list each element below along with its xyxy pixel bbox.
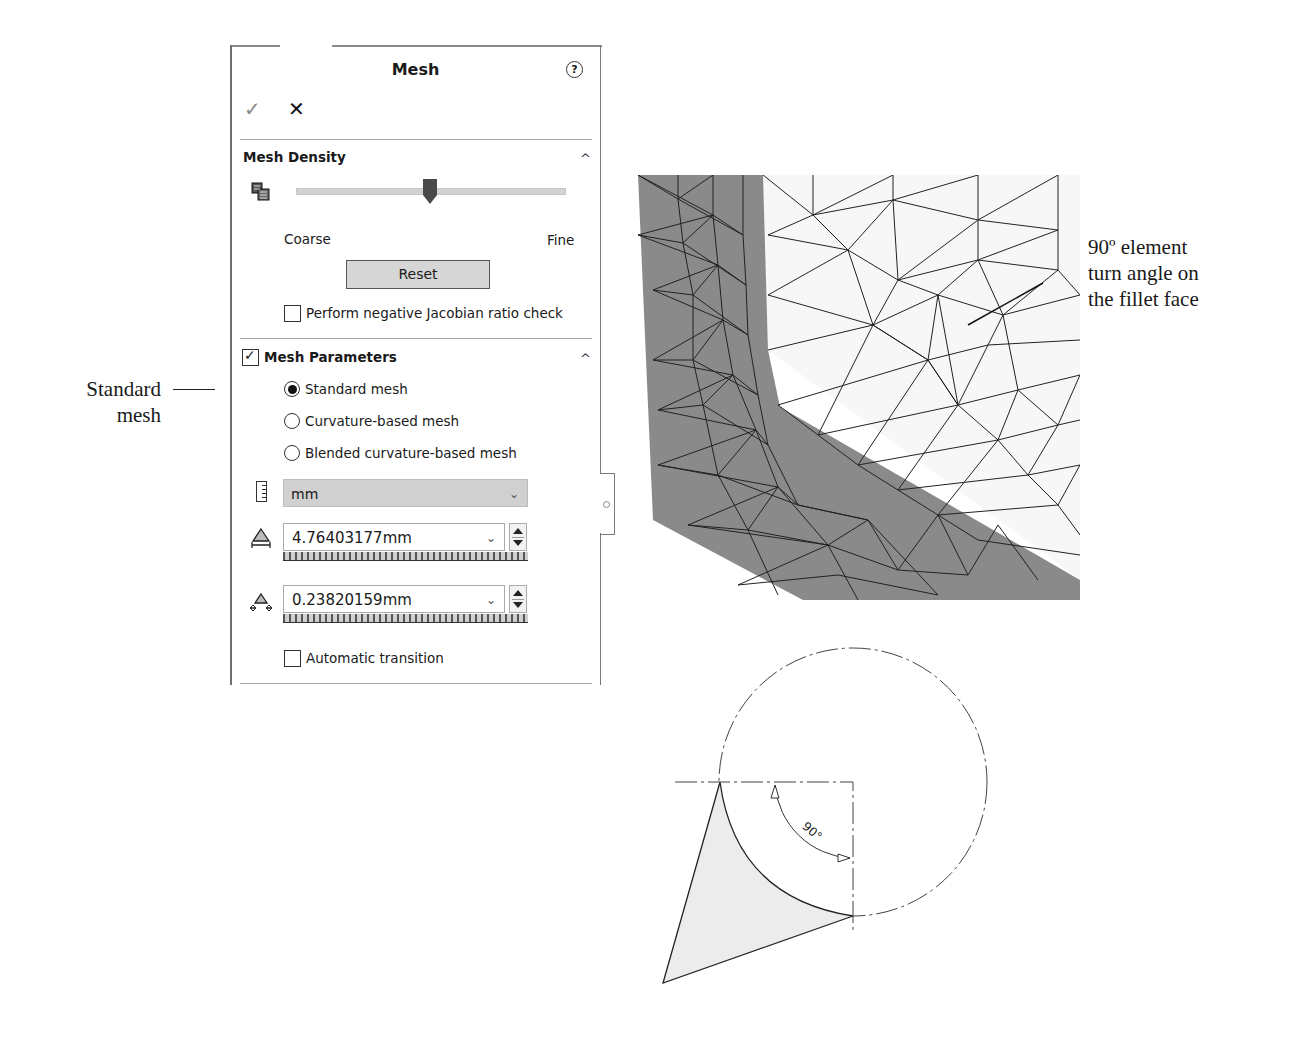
global-size-spinner[interactable]: [509, 523, 527, 551]
blended-curvature-mesh-label: Blended curvature-based mesh: [305, 445, 517, 461]
chevron-down-icon[interactable]: ⌄: [509, 480, 519, 508]
mesh-density-slider-thumb[interactable]: [423, 195, 437, 204]
mesh-density-icon: [250, 181, 272, 203]
cancel-x-button[interactable]: ✕: [288, 97, 305, 121]
global-size-icon: [250, 527, 272, 549]
mesh-property-manager: Mesh ? ✓ ✕ Mesh Density ^ Coarse Fine Re…: [230, 45, 601, 685]
global-size-input[interactable]: 4.76403177mm ⌄: [283, 523, 505, 551]
unit-ruler-icon: [256, 481, 267, 502]
unit-dropdown[interactable]: mm ⌄: [283, 479, 528, 507]
tolerance-spinner[interactable]: [509, 585, 527, 613]
mesh-parameters-heading: Mesh Parameters: [264, 349, 397, 365]
tolerance-icon: [248, 591, 274, 613]
tolerance-thumbwheel[interactable]: [283, 614, 528, 623]
divider: [240, 683, 592, 684]
divider: [240, 338, 592, 339]
tolerance-value: 0.23820159mm: [292, 591, 412, 609]
annotation-leader-line: [173, 389, 215, 390]
panel-border: [600, 45, 601, 475]
panel-border: [600, 533, 601, 685]
annotation-line: the fillet face: [1088, 286, 1199, 312]
global-size-value: 4.76403177mm: [292, 529, 412, 547]
help-icon[interactable]: ?: [566, 61, 583, 78]
divider: [240, 139, 592, 140]
global-size-thumbwheel[interactable]: [283, 552, 528, 561]
reset-button[interactable]: Reset: [346, 260, 490, 289]
jacobian-check-label: Perform negative Jacobian ratio check: [306, 305, 563, 321]
tolerance-input[interactable]: 0.23820159mm ⌄: [283, 585, 505, 613]
curvature-based-mesh-radio[interactable]: [284, 413, 300, 429]
mesh-density-slider-thumb[interactable]: [423, 179, 437, 195]
mesh-parameters-checkbox[interactable]: [242, 349, 259, 366]
unit-value: mm: [291, 486, 318, 502]
turn-angle-diagram: 90°: [640, 640, 1040, 1000]
standard-mesh-annotation: Standard mesh: [66, 376, 161, 428]
panel-tab-edge: [230, 45, 280, 47]
collapse-mesh-parameters-button[interactable]: ^: [580, 351, 591, 366]
fillet-angle-annotation: 90º element turn angle on the fillet fac…: [1088, 234, 1199, 312]
jacobian-check-checkbox[interactable]: [284, 305, 301, 322]
automatic-transition-label: Automatic transition: [306, 650, 444, 666]
annotation-line: 90º element: [1088, 234, 1199, 260]
automatic-transition-checkbox[interactable]: [284, 650, 301, 667]
standard-mesh-label: Standard mesh: [305, 381, 408, 397]
panel-tab-edge: [332, 45, 602, 47]
blended-curvature-mesh-radio[interactable]: [284, 445, 300, 461]
annotation-line: Standard: [66, 376, 161, 402]
chevron-down-icon[interactable]: ⌄: [486, 524, 496, 552]
ok-checkmark-button[interactable]: ✓: [244, 97, 261, 121]
panel-border: [230, 45, 232, 685]
chevron-down-icon[interactable]: ⌄: [486, 586, 496, 614]
slider-max-label: Fine: [547, 232, 574, 248]
annotation-line: turn angle on: [1088, 260, 1199, 286]
annotation-line: mesh: [66, 402, 161, 428]
resize-grip-icon[interactable]: [603, 501, 610, 508]
collapse-mesh-density-button[interactable]: ^: [580, 151, 591, 166]
standard-mesh-radio[interactable]: [284, 381, 300, 397]
curvature-based-mesh-label: Curvature-based mesh: [305, 413, 459, 429]
mesh-density-heading: Mesh Density: [243, 149, 346, 165]
slider-min-label: Coarse: [284, 231, 331, 247]
mesh-fillet-render: [638, 175, 1080, 600]
panel-title: Mesh: [230, 60, 601, 79]
